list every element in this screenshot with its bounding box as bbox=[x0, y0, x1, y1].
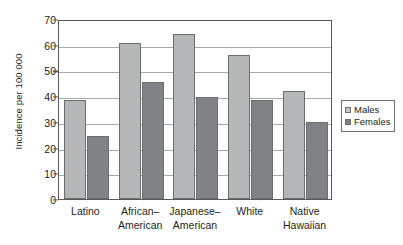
males-swatch-icon bbox=[345, 107, 351, 113]
legend: MalesFemales bbox=[341, 100, 395, 132]
x-axis-tick-label-line: American bbox=[113, 219, 168, 233]
x-axis-tick-label-line: Japanese– bbox=[168, 205, 223, 219]
bar-group bbox=[59, 19, 114, 199]
x-axis-tick-label: White bbox=[222, 205, 277, 219]
legend-item-label: Females bbox=[354, 116, 390, 128]
x-axis-tick-label: NativeHawaiian bbox=[277, 205, 332, 232]
x-axis-tick-label: African–American bbox=[113, 205, 168, 232]
females-swatch-icon bbox=[345, 119, 351, 125]
bar-females-japanese-american bbox=[196, 97, 218, 199]
bar-males-latino bbox=[64, 100, 86, 199]
bar-males-african-american bbox=[119, 43, 141, 199]
x-axis-tick-label-line: Native bbox=[277, 205, 332, 219]
x-axis-tick-label: Japanese–American bbox=[168, 205, 223, 232]
y-axis-tick-label: 40 bbox=[16, 91, 56, 103]
x-axis-tick-label-line: Latino bbox=[58, 205, 113, 219]
bar-group bbox=[278, 19, 333, 199]
x-axis-tick-label-line: Hawaiian bbox=[277, 219, 332, 233]
legend-item-females[interactable]: Females bbox=[345, 116, 390, 128]
legend-item-label: Males bbox=[354, 104, 379, 116]
bar-females-latino bbox=[87, 136, 109, 199]
bar-group bbox=[223, 19, 278, 199]
bar-males-white bbox=[228, 55, 250, 199]
x-axis-tick-label: Latino bbox=[58, 205, 113, 219]
bar-females-african-american bbox=[142, 82, 164, 199]
plot-area bbox=[58, 20, 332, 200]
bar-group bbox=[114, 19, 169, 199]
x-axis-tick-label-line: White bbox=[222, 205, 277, 219]
x-axis-tick-label-line: African– bbox=[113, 205, 168, 219]
y-axis-tick-label: 30 bbox=[16, 117, 56, 129]
bar-group bbox=[169, 19, 224, 199]
y-axis-tick-label: 20 bbox=[16, 143, 56, 155]
bar-males-japanese-american bbox=[173, 34, 195, 199]
legend-item-males[interactable]: Males bbox=[345, 104, 390, 116]
x-axis-tick-label-line: American bbox=[168, 219, 223, 233]
y-axis-tick-label: 0 bbox=[16, 194, 56, 206]
y-axis-tick-label: 10 bbox=[16, 168, 56, 180]
bar-chart-figure: Incidence per 100 000 010203040506070 La… bbox=[0, 0, 403, 245]
y-axis-tick-label: 70 bbox=[16, 14, 56, 26]
y-axis-tick-label: 60 bbox=[16, 40, 56, 52]
y-axis-tick-label: 50 bbox=[16, 65, 56, 77]
bar-females-white bbox=[251, 100, 273, 199]
bar-males-native-hawaiian bbox=[283, 91, 305, 199]
bar-females-native-hawaiian bbox=[306, 122, 328, 199]
